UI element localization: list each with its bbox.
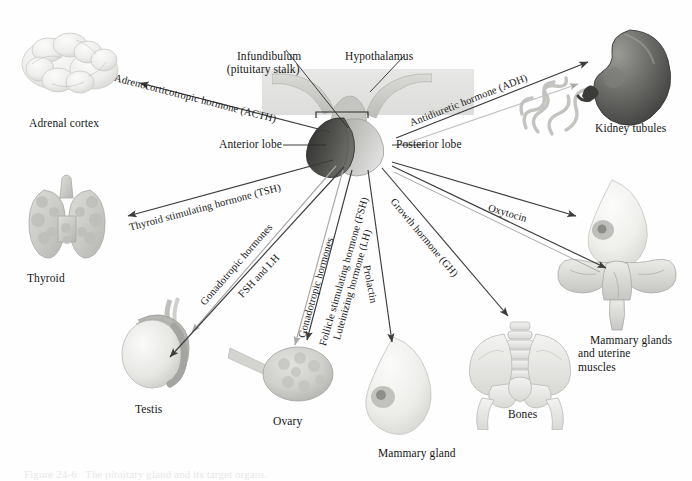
adrenal-cortex-illustration [18, 24, 136, 110]
ovary-label: Ovary [273, 415, 302, 429]
infundibulum-label: Infundibulum (pituitary stalk) [225, 36, 301, 90]
bones-label: Bones [508, 408, 537, 422]
hormone-label-prolactin: Prolactin [360, 264, 380, 304]
testis-illustration [108, 296, 216, 400]
anterior-lobe-label: Anterior lobe [219, 138, 282, 152]
adrenal-cortex-label: Adrenal cortex [29, 117, 99, 131]
ovary-illustration [228, 336, 338, 408]
hormone-label-gh: Growth hormone (GH) [388, 196, 461, 280]
testis-label: Testis [135, 403, 162, 417]
infundibulum-text: Infundibulum (pituitary stalk) [227, 50, 302, 76]
thyroid-illustration [14, 172, 122, 264]
mammary-uterine-label: Mammary glands and uterine muscles [578, 320, 672, 388]
mammary-gland-label: Mammary gland [378, 447, 456, 461]
hormone-label-tsh: Thyroid stimulating hormone (TSH) [128, 182, 282, 234]
thyroid-label: Thyroid [27, 272, 65, 286]
figure-caption: Figure 24-6 The pituitary gland and its … [24, 468, 268, 481]
posterior-lobe-label: Posterior lobe [396, 138, 462, 152]
mammary-gland-illustration [355, 335, 437, 439]
hypothalamus-label: Hypothalamus [345, 50, 413, 64]
mammary-uterine-text: Mammary glands and uterine muscles [578, 334, 672, 373]
hormone-label-oxytocin: Oxytocin [486, 202, 528, 225]
